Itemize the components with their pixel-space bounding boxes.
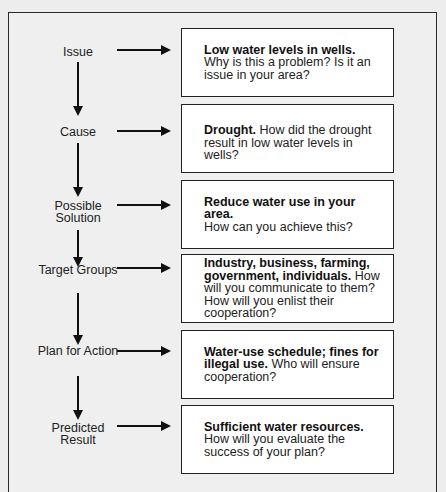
step-box-possible-solution: Reduce water use in your area. How can y… [181, 180, 394, 249]
down-arrow-icon [77, 230, 79, 265]
step-label-plan-for-action: Plan for Action [33, 345, 123, 357]
down-arrow-icon [77, 62, 79, 114]
right-arrow-icon [117, 204, 169, 206]
step-box-issue: Low water levels in wells. Why is this a… [181, 28, 394, 97]
right-arrow-icon [117, 425, 169, 427]
right-arrow-icon [117, 130, 169, 132]
right-arrow-icon [117, 350, 169, 352]
step-box-heading: Reduce water use in your area. [204, 195, 355, 222]
step-box-plan-for-action: Water-use schedule; fines for illegal us… [181, 330, 394, 399]
step-box-cause: Drought. How did the drought result in l… [181, 104, 394, 173]
step-label-issue: Issue [33, 46, 123, 58]
step-box-target-groups: Industry, business, farming, government,… [181, 254, 394, 323]
step-box-text: How will you evaluate the success of you… [204, 432, 345, 459]
step-label-possible-solution: Possible Solution [33, 200, 123, 224]
step-label-target-groups: Target Groups [33, 264, 123, 276]
step-box-predicted-result: Sufficient water resources. How will you… [181, 405, 394, 474]
step-label-predicted-result: Predicted Result [33, 422, 123, 446]
right-arrow-icon [117, 267, 169, 269]
down-arrow-icon [77, 293, 79, 343]
down-arrow-icon [77, 143, 79, 195]
step-box-text: How can you achieve this? [204, 220, 353, 234]
right-arrow-icon [117, 49, 169, 51]
step-label-cause: Cause [33, 126, 123, 138]
step-box-heading: Industry, business, farming, government,… [204, 256, 370, 283]
step-box-text: Why is this a problem? Is it an issue in… [204, 55, 371, 82]
down-arrow-icon [77, 376, 79, 418]
